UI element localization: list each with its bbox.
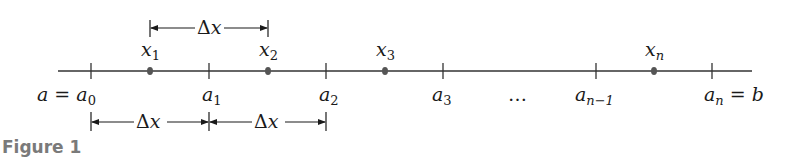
label-a1: a1 (202, 83, 222, 108)
label-an-1: an−1 (575, 83, 614, 108)
bottom-delta-x-brackets (91, 112, 326, 131)
figure-caption: Figure 1 (2, 137, 81, 157)
label-a0: a = a0 (37, 83, 96, 108)
bottom-delta-x-label-2: Δx (254, 110, 279, 132)
point-x3 (382, 67, 388, 75)
label-xn: xn (645, 38, 664, 63)
ellipsis: … (508, 83, 527, 105)
bottom-delta-x-label-1: Δx (136, 110, 161, 132)
partition-diagram: x1 x2 x3 xn a = a0 a1 a2 a3 … an−1 an = … (0, 0, 802, 164)
label-an: an = b (704, 83, 764, 108)
label-x2: x2 (259, 38, 278, 63)
label-a2: a2 (319, 83, 339, 108)
top-delta-x-label: Δx (197, 16, 222, 38)
point-xn (651, 67, 657, 75)
point-x1 (147, 67, 153, 75)
label-x1: x1 (141, 38, 160, 63)
point-x2 (265, 67, 271, 75)
label-a3: a3 (432, 83, 452, 108)
label-x3: x3 (376, 38, 395, 63)
